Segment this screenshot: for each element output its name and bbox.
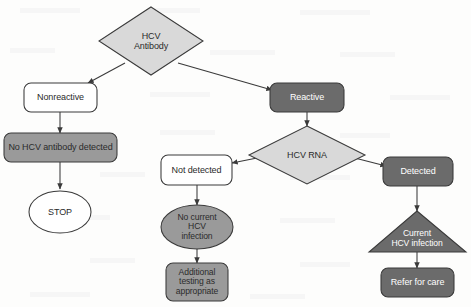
edge-antibody-to-nonreactive (88, 63, 125, 83)
edge-antibody-to-reactive (178, 63, 272, 90)
node-no-current-infection (161, 205, 233, 249)
node-refer-for-care (381, 268, 454, 297)
node-stop (29, 191, 91, 233)
node-hcv-antibody (99, 7, 203, 75)
node-no-antibody (4, 133, 117, 162)
node-additional-testing (166, 263, 228, 301)
hcv-testing-flowchart: HCV Antibody Nonreactive No HCV antibody… (0, 0, 471, 307)
node-not-detected (161, 155, 232, 185)
node-nonreactive (24, 83, 97, 112)
node-detected (383, 157, 453, 186)
node-current-hcv-infection (369, 211, 466, 252)
node-reactive (270, 83, 344, 112)
flowchart-canvas (0, 0, 471, 307)
edge-group (60, 63, 417, 268)
